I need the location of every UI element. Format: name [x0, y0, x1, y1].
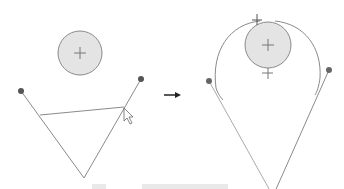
after-panel [206, 14, 332, 189]
left-line [209, 81, 273, 189]
endpoint-dot [18, 88, 24, 94]
endpoint-dot [206, 78, 212, 84]
transition-arrow-icon [164, 92, 181, 98]
before-panel [18, 31, 144, 178]
diagram-canvas [0, 0, 344, 189]
endpoint-dot [326, 67, 332, 73]
cursor-icon [124, 108, 133, 124]
left-line [21, 91, 84, 178]
cross-line [40, 107, 124, 115]
right-line [273, 70, 329, 189]
right-line [84, 79, 141, 178]
caption [92, 184, 228, 189]
endpoint-dot [138, 76, 144, 82]
